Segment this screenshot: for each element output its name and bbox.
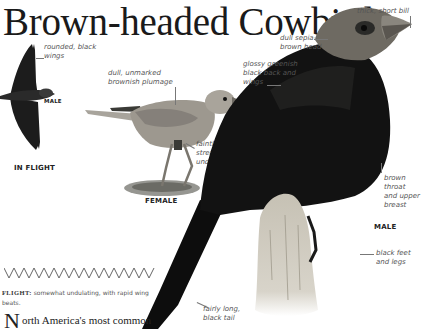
leader-line <box>381 163 382 173</box>
leader-line <box>360 254 374 255</box>
male-bird-illustration <box>130 0 423 329</box>
label-in-flight: IN FLIGHT <box>14 164 55 172</box>
flight-label: FLIGHT: <box>2 289 32 296</box>
body-text: North America's most common <box>4 314 151 326</box>
label-male: MALE <box>374 223 396 231</box>
annotation-male-bill: thick, short bill <box>357 7 409 16</box>
drop-cap: N <box>4 308 20 329</box>
leader-line <box>314 39 328 40</box>
flight-description: FLIGHT: somewhat undulating, with rapid … <box>2 288 152 308</box>
leader-line <box>36 58 44 59</box>
annotation-male-tail: fairly long, black tail <box>203 305 240 323</box>
annotation-male-throat: brown throat and upper breast <box>384 174 420 210</box>
annotation-male-feet: black feet and legs <box>376 249 411 267</box>
leader-line <box>410 16 411 28</box>
annotation-male-back: glossy greenish black back and wings <box>243 60 298 87</box>
leader-line <box>267 85 281 86</box>
annotation-flight-wings: rounded, black wings <box>44 43 96 61</box>
label-flight-male: MALE <box>44 98 62 104</box>
body-text-line: orth America's most common <box>22 314 151 326</box>
flight-pattern-zigzag-icon <box>4 266 160 280</box>
annotation-male-head: dull sepia- brown head <box>280 34 321 52</box>
